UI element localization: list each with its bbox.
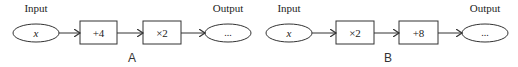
output-value: ... xyxy=(224,27,232,38)
diagram-caption: B xyxy=(384,51,392,65)
diagram-caption: A xyxy=(128,51,136,65)
output-label: Output xyxy=(470,2,501,14)
diagram-a: Input Output x +4 ×2 ... A xyxy=(13,2,251,65)
input-label: Input xyxy=(24,2,47,14)
step-label: ×2 xyxy=(156,27,168,39)
input-value: x xyxy=(286,27,292,39)
input-label: Input xyxy=(277,2,300,14)
diagram-b: Input Output x ×2 +8 ... B xyxy=(266,2,508,65)
step-label: +4 xyxy=(93,27,105,39)
flow-diagrams: Input Output x +4 ×2 ... A Input Output … xyxy=(0,0,518,67)
output-value: ... xyxy=(481,27,489,38)
output-label: Output xyxy=(213,2,244,14)
step-label: +8 xyxy=(413,27,425,39)
input-value: x xyxy=(33,27,39,39)
step-label: ×2 xyxy=(349,27,361,39)
